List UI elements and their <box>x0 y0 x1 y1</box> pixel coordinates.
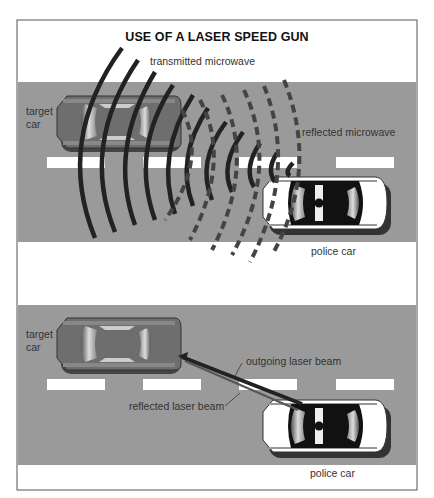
label-outgoing-laser-beam: outgoing laser beam <box>246 355 341 367</box>
label-bottom-police-car: police car <box>310 467 355 479</box>
bottom-target-car <box>57 318 181 374</box>
label-top-car: car <box>26 118 41 130</box>
bottom-police-car <box>263 400 391 458</box>
label-top-target: target <box>26 105 53 117</box>
label-bottom-target: target <box>26 328 53 340</box>
diagram-title: USE OF A LASER SPEED GUN <box>0 30 434 44</box>
label-reflected-laser-beam: reflected laser beam <box>129 400 224 412</box>
label-reflected-microwave: reflected microwave <box>302 126 395 138</box>
top-police-car <box>263 177 391 235</box>
diagram-canvas <box>0 0 434 498</box>
label-transmitted-microwave: transmitted microwave <box>150 55 255 67</box>
label-bottom-car: car <box>26 341 41 353</box>
diagram: USE OF A LASER SPEED GUN transmitted mic… <box>0 0 434 498</box>
label-top-police-car: police car <box>311 245 356 257</box>
